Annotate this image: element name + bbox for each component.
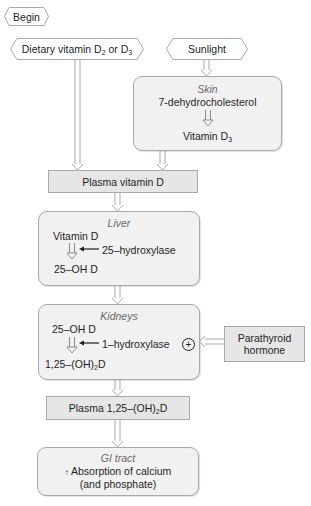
plasma-vitamin-d-box: Plasma vitamin D [48,170,198,193]
skin-title: Skin [134,83,281,95]
parathyroid-hormone-box: Parathyroid hormone [224,326,305,362]
kidneys-conversion-arrow-icon [66,337,100,354]
stimulation-plus-icon: + [182,338,195,351]
conversion-arrow-icon [202,110,214,127]
liver-title: Liver [39,217,199,229]
liver-enzyme: 25–hydroxylase [102,244,176,256]
kidneys-title: Kidneys [39,310,199,322]
begin-label: Begin [13,11,40,23]
skin-substrate: 7-dehydrocholesterol [134,96,281,108]
liver-substrate: Vitamin D [53,230,98,242]
gi-tract-title: GI tract [38,452,198,464]
kidneys-substrate: 25–OH D [52,323,96,335]
kidneys-box: Kidneys 25–OH D 1–hydroxylase + 1,25–(OH… [38,304,200,380]
kidneys-product: 1,25–(OH)2D [45,358,106,370]
kidneys-enzyme: 1–hydroxylase [102,338,170,350]
parathyroid-line1: Parathyroid [238,332,292,344]
gi-tract-line2: (and phosphate) [38,478,198,490]
plasma-vitamin-d-label: Plasma vitamin D [82,176,164,188]
skin-box: Skin 7-dehydrocholesterol Vitamin D3 [133,76,282,151]
parathyroid-line2: hormone [244,344,285,356]
liver-conversion-arrow-icon [66,243,100,260]
dietary-label: Dietary vitamin D2 or D3 [22,43,133,55]
liver-product: 25–OH D [54,263,98,275]
dietary-vitamin-d-node: Dietary vitamin D2 or D3 [10,38,144,60]
gi-tract-box: GI tract ↑ Absorption of calcium (and ph… [37,447,199,496]
sunlight-label: Sunlight [188,43,226,55]
gi-tract-line1: ↑ Absorption of calcium [38,465,198,477]
sunlight-node: Sunlight [166,38,248,60]
liver-box: Liver Vitamin D 25–hydroxylase 25–OH D [38,211,200,286]
plasma-calcitriol-box: Plasma 1,25–(OH)2D [46,396,190,420]
begin-node: Begin [4,7,49,26]
skin-product: Vitamin D3 [134,130,281,142]
plasma-calcitriol-label: Plasma 1,25–(OH)2D [69,402,167,414]
